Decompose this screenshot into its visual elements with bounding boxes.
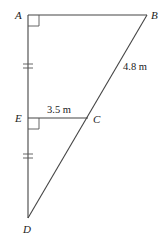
segment-bd bbox=[28, 15, 147, 218]
measurement-ec: 3.5 m bbox=[47, 104, 71, 115]
right-angle-marker-e bbox=[28, 118, 39, 129]
point-label-a: A bbox=[14, 9, 22, 21]
point-label-e: E bbox=[14, 112, 22, 124]
geometry-diagram: A B E C D 4.8 m 3.5 m bbox=[0, 0, 165, 245]
point-label-d: D bbox=[22, 223, 31, 235]
point-label-c: C bbox=[93, 113, 101, 125]
measurement-bc: 4.8 m bbox=[123, 61, 147, 72]
right-angle-marker-a bbox=[28, 15, 39, 26]
point-label-b: B bbox=[151, 9, 158, 21]
